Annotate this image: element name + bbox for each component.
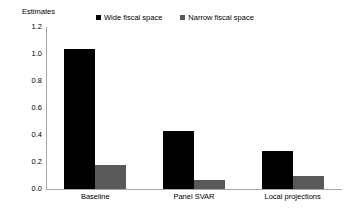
chart-legend: Wide fiscal spaceNarrow fiscal space (96, 14, 254, 22)
y-axis-tick-label: 0.2 (32, 158, 42, 166)
y-axis-title: Estimates (22, 8, 55, 16)
y-axis-tick-label: 1.0 (32, 50, 42, 58)
y-axis-tick-label: 1.2 (32, 23, 42, 31)
y-axis-tick-label: 0.8 (32, 77, 42, 85)
bar[interactable] (163, 131, 194, 189)
bar-group (64, 27, 126, 189)
x-axis-category-label: Panel SVAR (145, 193, 244, 201)
legend-label: Wide fiscal space (104, 14, 162, 22)
square-marker (96, 15, 101, 20)
bar-group (262, 27, 324, 189)
bar[interactable] (262, 151, 293, 189)
x-axis-category-label: Local projections (243, 193, 342, 201)
bar[interactable] (194, 180, 225, 189)
bar[interactable] (95, 165, 126, 189)
y-axis-tick-label: 0.0 (32, 185, 42, 193)
square-marker (180, 15, 185, 20)
legend-label: Narrow fiscal space (188, 14, 253, 22)
bar[interactable] (64, 49, 95, 189)
legend-entry[interactable]: Wide fiscal space (96, 14, 162, 22)
y-axis-tick-label: 0.4 (32, 131, 42, 139)
bar[interactable] (293, 176, 324, 190)
x-axis-category-label: Baseline (46, 193, 145, 201)
legend-entry[interactable]: Narrow fiscal space (180, 14, 253, 22)
x-axis-line (46, 189, 342, 190)
bar-chart: Estimates Wide fiscal spaceNarrow fiscal… (0, 0, 350, 220)
plot-area: 1.21.00.80.60.40.20.0 (46, 27, 342, 189)
y-axis-tick-label: 0.6 (32, 104, 42, 112)
bar-group (163, 27, 225, 189)
